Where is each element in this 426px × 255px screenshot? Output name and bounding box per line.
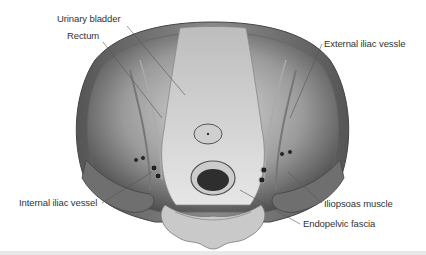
label-urinary-bladder: Urinary bladder	[57, 13, 120, 24]
label-endopelvic-fascia: Endopelvic fascia	[303, 218, 375, 229]
label-external-iliac-vessle: External iliac vessle	[324, 38, 405, 49]
label-internal-iliac-vessel: Internal iliac vessel	[19, 197, 97, 208]
label-rectum: Rectum	[67, 30, 99, 41]
pelvis-illustration: Urinary bladder Rectum External iliac ve…	[0, 0, 426, 251]
label-iliopsoas-muscle: Iliopsoas muscle	[324, 198, 393, 209]
bottom-divider	[0, 251, 426, 255]
